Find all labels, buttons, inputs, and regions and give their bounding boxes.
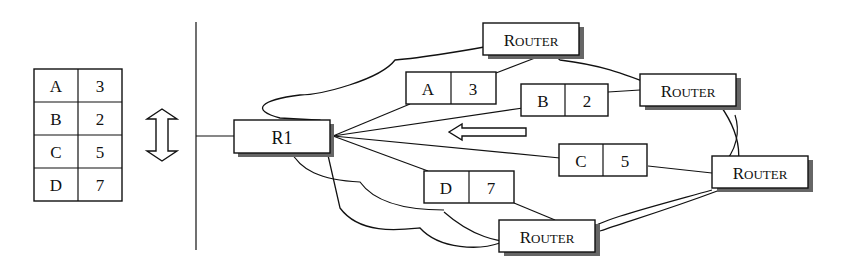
advertisement-b: B 2 xyxy=(521,84,608,116)
table-dest: C xyxy=(50,143,61,162)
svg-text:B: B xyxy=(537,92,548,111)
table-dest: D xyxy=(50,176,62,195)
router-r1-label: R1 xyxy=(271,128,292,148)
distance-vector-diagram: A 3 B 2 C 5 D 7 R1 A 3 B 2 xyxy=(0,0,852,272)
svg-text:7: 7 xyxy=(487,179,496,198)
router-top: ROUTER xyxy=(483,23,584,59)
router-right-upper: ROUTER xyxy=(640,74,741,110)
svg-text:A: A xyxy=(422,80,435,99)
routing-table: A 3 B 2 C 5 D 7 xyxy=(34,69,122,201)
svg-text:C: C xyxy=(575,152,586,171)
svg-text:ROUTER: ROUTER xyxy=(520,228,575,247)
table-cost: 5 xyxy=(96,143,105,162)
router-right-lower: ROUTER xyxy=(712,156,813,192)
table-dest: B xyxy=(50,110,61,129)
advertisement-a: A 3 xyxy=(406,72,496,104)
table-cost: 7 xyxy=(96,176,105,195)
router-r1: R1 xyxy=(234,120,334,157)
advertisement-d: D 7 xyxy=(424,171,514,203)
svg-text:2: 2 xyxy=(583,92,592,111)
svg-text:D: D xyxy=(440,179,452,198)
svg-text:ROUTER: ROUTER xyxy=(733,164,788,183)
table-cost: 2 xyxy=(96,110,105,129)
svg-text:3: 3 xyxy=(469,80,478,99)
table-dest: A xyxy=(50,77,63,96)
advertisement-c: C 5 xyxy=(559,144,647,176)
svg-text:5: 5 xyxy=(621,152,630,171)
bidirectional-arrow-icon xyxy=(147,109,177,161)
svg-text:ROUTER: ROUTER xyxy=(661,82,716,101)
svg-text:ROUTER: ROUTER xyxy=(504,31,559,50)
router-bottom: ROUTER xyxy=(499,220,600,256)
table-cost: 3 xyxy=(96,77,105,96)
